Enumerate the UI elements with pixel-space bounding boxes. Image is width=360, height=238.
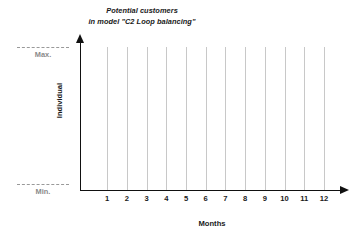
- gridline: [166, 47, 167, 190]
- chart-title: Potential customers in model "C2 Loop ba…: [0, 6, 300, 27]
- gridline: [186, 47, 187, 190]
- y-axis-line: [80, 41, 81, 191]
- gridline: [206, 47, 207, 190]
- x-axis-arrow-icon: [340, 186, 349, 194]
- gridline: [245, 47, 246, 190]
- gridline: [225, 47, 226, 190]
- max-reference-marker: Max.: [17, 47, 69, 59]
- min-reference-marker: Min.: [17, 184, 69, 196]
- chart-title-line-2: in model "C2 Loop balancing": [0, 17, 300, 28]
- gridline: [285, 47, 286, 190]
- y-axis-title: Individual: [55, 63, 64, 139]
- max-label: Max.: [17, 50, 69, 59]
- chart-container: Potential customers in model "C2 Loop ba…: [0, 0, 360, 238]
- y-axis-arrow-icon: [76, 34, 84, 43]
- min-dashed-line: [17, 184, 69, 185]
- min-label: Min.: [17, 187, 69, 196]
- gridline: [304, 47, 305, 190]
- max-dashed-line: [17, 47, 69, 48]
- chart-title-line-1: Potential customers: [0, 6, 300, 17]
- x-axis-line: [80, 190, 342, 191]
- gridline: [265, 47, 266, 190]
- gridline: [127, 47, 128, 190]
- gridline: [147, 47, 148, 190]
- x-axis-title: Months: [152, 219, 272, 228]
- x-axis-tick-label: 12: [312, 194, 336, 203]
- gridline: [324, 47, 325, 190]
- gridline: [107, 47, 108, 190]
